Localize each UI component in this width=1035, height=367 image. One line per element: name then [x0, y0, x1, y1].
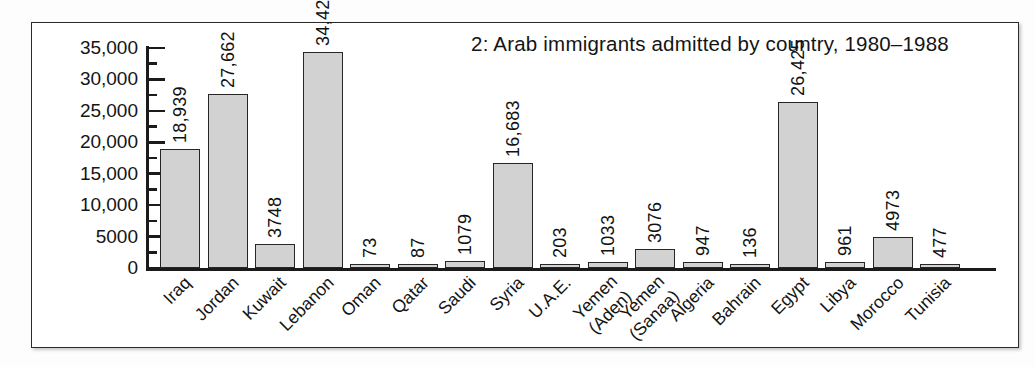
bar[interactable] — [160, 149, 200, 268]
y-tick-minor — [148, 94, 157, 97]
x-axis-category-label: Qatar — [387, 273, 433, 319]
bar-value-label: 203 — [550, 227, 571, 258]
bar[interactable] — [635, 249, 675, 268]
bar[interactable] — [445, 261, 485, 268]
y-tick-minor — [148, 251, 157, 254]
bar[interactable] — [208, 94, 248, 268]
y-tick-minor — [148, 125, 157, 128]
bar-value-label: 1079 — [455, 214, 476, 255]
bar-value-label: 73 — [360, 237, 381, 258]
bar-value-label: 3076 — [645, 201, 666, 242]
bar-value-label: 87 — [407, 237, 428, 258]
x-axis-category-label: Bahrain — [708, 273, 766, 331]
bar[interactable] — [398, 264, 438, 268]
bar[interactable] — [873, 237, 913, 268]
y-axis-label: 10,000 — [80, 194, 138, 216]
y-tick-major — [148, 110, 165, 113]
bar[interactable] — [683, 262, 723, 268]
y-axis-label: 25,000 — [80, 100, 138, 122]
x-axis-category-label: Saudi — [434, 273, 481, 320]
bar[interactable] — [350, 264, 390, 268]
x-axis-category-label: Oman — [337, 273, 386, 322]
bar[interactable] — [778, 102, 818, 268]
bar-value-label: 27,662 — [217, 31, 238, 88]
bar-value-label: 3748 — [265, 197, 286, 238]
plot-area: 0500010,00015,00020,00025,00030,00035,00… — [146, 48, 996, 268]
bar[interactable] — [825, 262, 865, 268]
y-tick-major — [148, 141, 165, 144]
x-axis-category-label: U.A.E. — [525, 273, 576, 324]
y-axis-label: 30,000 — [80, 68, 138, 90]
y-tick-minor — [148, 220, 157, 223]
bar-value-label: 477 — [930, 227, 951, 258]
y-axis-label: 15,000 — [80, 163, 138, 185]
x-axis-category-label: Iraq — [159, 273, 195, 309]
x-axis-category-label: Syria — [485, 273, 528, 316]
x-axis-line — [146, 268, 996, 271]
y-tick-minor — [148, 157, 157, 160]
x-axis-category-label: Jordan — [190, 273, 243, 326]
y-axis-label: 5000 — [96, 226, 138, 248]
bar-value-label: 136 — [740, 227, 761, 258]
y-tick-major — [148, 47, 165, 50]
y-axis-label: 0 — [127, 257, 138, 279]
y-axis-labels: 0500010,00015,00020,00025,00030,00035,00… — [42, 48, 138, 268]
y-tick-minor — [148, 188, 157, 191]
bar-value-label: 961 — [835, 225, 856, 256]
bar-value-label: 1033 — [597, 214, 618, 255]
bar-value-label: 18,939 — [170, 86, 191, 143]
y-tick-minor — [148, 62, 157, 65]
bar[interactable] — [255, 244, 295, 268]
x-axis-category-label: Egypt — [766, 273, 812, 319]
x-axis-category-label: Libya — [816, 273, 860, 317]
bar[interactable] — [540, 264, 580, 268]
bar[interactable] — [588, 262, 628, 268]
bar-value-label: 947 — [692, 225, 713, 256]
bar-value-label: 26,425 — [787, 39, 808, 96]
bar-value-label: 16,683 — [502, 100, 523, 157]
y-tick-major — [148, 78, 165, 81]
figure-frame: 2: Arab immigrants admitted by country, … — [31, 22, 1019, 348]
bar[interactable] — [920, 264, 960, 268]
bar[interactable] — [303, 52, 343, 268]
bar-value-label: 4973 — [882, 190, 903, 231]
y-axis-label: 35,000 — [80, 37, 138, 59]
x-axis-category-label: Tunisia — [901, 273, 955, 327]
bar[interactable] — [493, 163, 533, 268]
bar[interactable] — [730, 264, 770, 268]
y-axis-label: 20,000 — [80, 131, 138, 153]
bar-value-label: 34,420 — [312, 0, 333, 46]
